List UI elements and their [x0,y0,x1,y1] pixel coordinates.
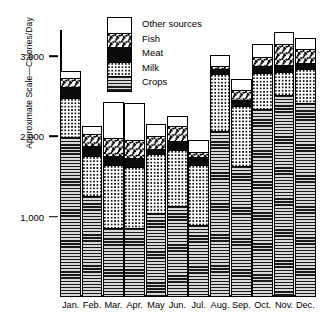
bar-segment-other-sources [189,141,208,152]
bar-segment-fish [147,136,166,149]
stacked-bar-chart: Approximate Scale—Calories/Day 1,0002,00… [0,0,332,320]
legend-swatch-other-sources [108,18,131,33]
bar-segment-fish [253,57,272,66]
x-tick-label: Dec. [296,300,315,310]
bar-segment-other-sources [232,80,251,90]
legend-label: Meat [142,46,202,61]
legend-swatch-crops [108,76,131,91]
bar-segment-meat [61,87,80,98]
legend-label: Fish [142,32,202,47]
bar-segment-crops [61,137,80,296]
bar-segment-crops [168,206,187,296]
x-axis-labels: Jan.Feb.Mar.Apr.MayJun.Jul.Aug.Sep.Oct.N… [60,300,316,316]
bar-segment-crops [147,213,166,296]
bar-segment-other-sources [275,33,294,44]
y-tick-label: 1,000 [20,211,44,222]
bar-segment-crops [275,95,294,296]
x-tick-label: Jan. [62,300,79,310]
bar-segment-crops [104,228,123,296]
bar-may [146,124,167,295]
bar-mar [103,102,124,295]
bar-segment-crops [211,131,230,296]
legend-label-column: Other sourcesFishMeatMilkCrops [142,17,202,90]
bar-segment-milk [275,72,294,95]
bar-segment-other-sources [125,104,144,140]
legend-label: Crops [142,75,202,90]
x-tick-label: Mar. [104,300,122,310]
bar-aug [210,55,231,295]
x-tick-label: Feb. [83,300,101,310]
bar-segment-meat [275,65,294,72]
bar-segment-crops [125,228,144,296]
x-tick-label: Sep. [232,300,251,310]
x-tick-label: Jun. [169,300,186,310]
bar-segment-fish [104,138,123,156]
legend-swatch-milk [108,62,131,77]
bar-segment-other-sources [147,125,166,135]
bar-feb [82,126,103,295]
bar-segment-meat [168,141,187,150]
y-tick-mark [49,216,58,218]
bar-segment-crops [296,103,315,296]
bar-segment-meat [104,156,123,165]
bar-segment-fish [61,78,80,87]
bar-nov [274,32,295,295]
bar-segment-fish [168,126,187,141]
bar-segment-milk [253,73,272,109]
legend-label: Milk [142,61,202,76]
x-tick-label: Nov. [275,300,293,310]
legend-swatch-meat [108,47,131,62]
y-tick-mark [49,55,58,57]
x-tick-label: May [147,300,164,310]
bar-segment-meat [253,66,272,73]
bar-segment-other-sources [253,45,272,57]
legend-swatch-fish [108,33,131,48]
bar-segment-milk [125,167,144,228]
bar-segment-fish [125,140,144,158]
x-tick-label: Oct. [254,300,271,310]
bar-segment-fish [83,134,102,146]
legend: Other sourcesFishMeatMilkCrops [107,17,202,92]
bar-segment-other-sources [168,117,187,126]
bar-jan [60,71,81,295]
bar-segment-crops [83,196,102,296]
bar-jul [188,140,209,295]
bar-dec [295,38,316,295]
bar-segment-milk [147,154,166,213]
bar-segment-milk [83,156,102,195]
bar-oct [252,44,273,295]
y-tick-label: 2,000 [20,131,44,142]
bar-segment-fish [296,49,315,63]
bar-segment-meat [83,146,102,156]
legend-label: Other sources [142,17,202,32]
legend-swatch-column [107,17,132,92]
bar-segment-milk [296,69,315,104]
y-tick-mark [49,136,58,138]
bar-segment-milk [232,106,251,165]
bar-segment-crops [232,166,251,296]
bar-segment-meat [189,157,208,165]
bar-segment-fish [275,44,294,65]
bar-segment-fish [232,90,251,100]
bar-segment-milk [104,165,123,228]
bar-segment-milk [168,150,187,206]
bar-segment-crops [253,109,272,296]
bar-segment-other-sources [296,39,315,49]
y-axis-title: Approximate Scale—Calories/Day [24,0,34,173]
bar-segment-crops [189,225,208,296]
bar-segment-meat [125,158,144,167]
bar-sep [231,79,252,295]
bar-apr [124,103,145,295]
bar-segment-milk [211,74,230,130]
y-tick-label: 3,000 [20,51,44,62]
bar-segment-milk [61,98,80,137]
bar-jun [167,116,188,295]
x-tick-label: Aug. [211,300,230,310]
bar-segment-other-sources [104,103,123,138]
bar-segment-other-sources [83,127,102,134]
x-tick-label: Jul. [192,300,206,310]
bar-segment-other-sources [211,56,230,66]
x-tick-label: Apr. [126,300,142,310]
bar-segment-milk [189,165,208,224]
